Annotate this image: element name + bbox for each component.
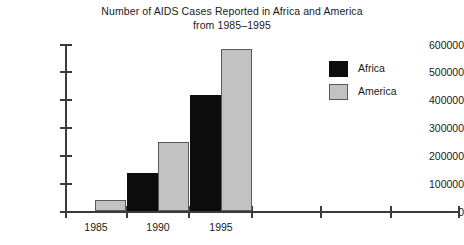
y-tick-label-400000: 400000 xyxy=(408,94,464,106)
bar-africa-1990 xyxy=(127,173,158,211)
x-tick-mark-4 xyxy=(320,206,322,218)
x-tick-label-1990: 1990 xyxy=(146,221,169,233)
y-tick-mark-100000 xyxy=(60,183,72,185)
legend-swatch-america-icon xyxy=(329,84,348,100)
y-tick-label-0: 0 xyxy=(408,206,464,218)
legend-label-america: America xyxy=(358,85,397,97)
x-tick-label-1995: 1995 xyxy=(209,221,232,233)
plot-area: 0 100000 200000 300000 400000 500000 600… xyxy=(0,0,464,245)
y-tick-mark-500000 xyxy=(60,71,72,73)
y-tick-label-300000: 300000 xyxy=(408,122,464,134)
y-tick-label-500000: 500000 xyxy=(408,66,464,78)
bar-america-1985 xyxy=(95,200,126,211)
aids-cases-bar-chart: Number of AIDS Cases Reported in Africa … xyxy=(0,0,464,245)
y-tick-mark-400000 xyxy=(60,99,72,101)
x-tick-label-1985: 1985 xyxy=(84,221,107,233)
x-tick-mark-origin xyxy=(65,206,67,218)
y-tick-label-600000: 600000 xyxy=(408,39,464,51)
x-tick-mark-5 xyxy=(390,206,392,218)
y-tick-label-200000: 200000 xyxy=(408,150,464,162)
legend-label-africa: Africa xyxy=(358,62,385,74)
x-axis-line xyxy=(65,211,460,213)
x-tick-mark-6 xyxy=(458,206,460,218)
y-tick-mark-600000 xyxy=(60,44,72,46)
y-tick-mark-300000 xyxy=(60,127,72,129)
y-tick-label-100000: 100000 xyxy=(408,178,464,190)
bar-america-1990 xyxy=(158,142,189,211)
legend-swatch-africa-icon xyxy=(329,61,348,77)
y-tick-mark-200000 xyxy=(60,155,72,157)
bar-africa-1995 xyxy=(190,95,221,211)
bar-america-1995 xyxy=(221,49,252,211)
